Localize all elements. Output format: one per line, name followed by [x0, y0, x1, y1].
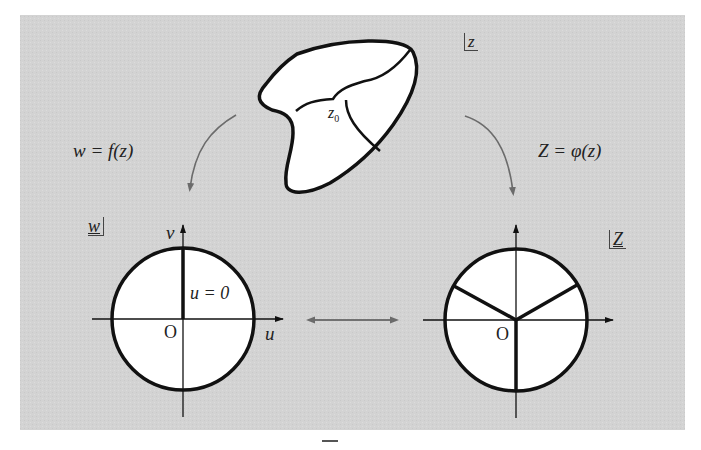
- u-equals-zero-label: u = 0: [190, 283, 229, 304]
- conformal-map-figure: z z0 w = f(z) Z = φ(z) w v u = 0 O u Z O: [0, 0, 701, 450]
- left-map-label: w = f(z): [73, 140, 133, 162]
- w-plane-label: w: [88, 217, 104, 236]
- w-origin-label: O: [164, 322, 177, 343]
- Z-plane-label: Z: [609, 230, 626, 249]
- diagram-canvas: [0, 0, 701, 450]
- page-footer-mark: [322, 440, 338, 442]
- u-axis-label: u: [265, 323, 275, 345]
- Z-origin-label: O: [496, 324, 509, 345]
- right-map-label: Z = φ(z): [538, 140, 601, 162]
- z0-label: z0: [328, 104, 339, 124]
- v-axis-label: v: [166, 222, 174, 244]
- z0-subscript: 0: [334, 113, 339, 124]
- z-plane-label: z: [464, 33, 478, 51]
